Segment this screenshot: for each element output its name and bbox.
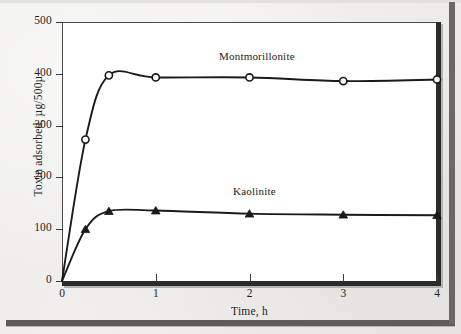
series-label-kaolinite: Kaolinite	[233, 185, 276, 197]
y-tick-mark	[56, 229, 63, 230]
x-tick-mark	[437, 274, 438, 282]
scan-bottom-rule	[6, 320, 455, 326]
x-tick-label: 3	[333, 287, 353, 299]
axis-right-highlight	[441, 24, 443, 286]
x-tick-mark	[343, 274, 344, 282]
x-tick-mark	[156, 274, 157, 282]
series-label-montmorillonite: Montmorillonite	[219, 50, 295, 62]
y-tick-label: 500	[18, 14, 52, 26]
x-axis-title: Time, h	[62, 305, 437, 317]
y-tick-mark	[56, 22, 63, 23]
y-tick-label: 0	[18, 273, 52, 285]
x-tick-label: 1	[146, 287, 166, 299]
figure-root: 0100200300400500 01234 Montmorillonite K…	[0, 0, 461, 334]
x-tick-label: 4	[427, 287, 447, 299]
scan-top-edge	[0, 0, 461, 3]
y-axis-title: Toxin adsorbed, µg/500µ	[32, 36, 44, 236]
x-tick-label: 2	[240, 287, 260, 299]
x-tick-label: 0	[52, 287, 72, 299]
y-tick-mark	[56, 126, 63, 127]
scan-right-rule	[449, 2, 455, 324]
y-tick-mark	[56, 177, 63, 178]
y-tick-mark	[56, 281, 63, 282]
y-tick-mark	[56, 74, 63, 75]
x-axis	[62, 281, 441, 286]
x-tick-mark	[250, 274, 251, 282]
y-axis-right	[436, 22, 441, 286]
